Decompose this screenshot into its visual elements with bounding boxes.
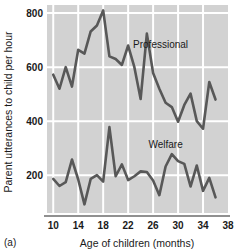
y-tick-label-400: 400 bbox=[26, 116, 43, 127]
x-tick-label-38: 38 bbox=[222, 220, 234, 231]
series-label-professional: Professional bbox=[133, 39, 188, 50]
y-axis-title: Parent utterances to child per hour bbox=[2, 31, 14, 193]
x-tick-label-10: 10 bbox=[48, 220, 60, 231]
x-tick-label-14: 14 bbox=[73, 220, 85, 231]
y-tick-label-200: 200 bbox=[26, 170, 43, 181]
series-label-welfare: Welfare bbox=[148, 139, 183, 150]
x-tick-label-22: 22 bbox=[123, 220, 135, 231]
x-axis-title: Age of children (months) bbox=[80, 237, 194, 249]
x-tick-label-34: 34 bbox=[197, 220, 209, 231]
line-chart: 1014182226303438 200400600800 Profession… bbox=[0, 0, 235, 252]
y-tick-label-600: 600 bbox=[26, 62, 43, 73]
x-tick-label-26: 26 bbox=[148, 220, 160, 231]
y-tick-label-800: 800 bbox=[26, 8, 43, 19]
x-tick-label-30: 30 bbox=[173, 220, 185, 231]
panel-label: (a) bbox=[4, 237, 16, 248]
figure-panel: 1014182226303438 200400600800 Profession… bbox=[0, 0, 235, 252]
x-tick-label-18: 18 bbox=[98, 220, 110, 231]
